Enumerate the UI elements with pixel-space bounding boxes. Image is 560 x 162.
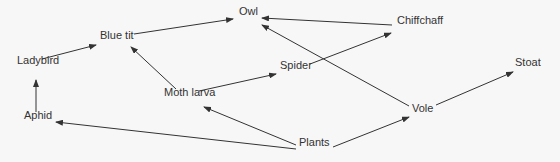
edge-chiffchaff-to-owl xyxy=(262,18,392,25)
edge-vole-to-stoat xyxy=(436,72,513,105)
node-owl: Owl xyxy=(239,5,258,17)
node-spider: Spider xyxy=(280,59,312,71)
node-vole: Vole xyxy=(412,102,433,114)
edge-bluetit-to-owl xyxy=(134,19,233,34)
node-aphid: Aphid xyxy=(24,109,52,121)
food-web-diagram: Owl Chiffchaff Blue tit Ladybird Spider … xyxy=(0,0,560,162)
node-chiffchaff: Chiffchaff xyxy=(397,14,443,26)
edge-spider-to-chiffchaff xyxy=(310,33,391,64)
node-stoat: Stoat xyxy=(515,56,541,68)
edge-plants-to-aphid xyxy=(56,122,296,149)
node-ladybird: Ladybird xyxy=(17,54,59,66)
edges-layer xyxy=(0,0,560,162)
node-plants: Plants xyxy=(299,136,330,148)
edge-plants-to-vole xyxy=(333,117,409,147)
node-blue-tit: Blue tit xyxy=(100,29,134,41)
node-moth-larva: Moth larva xyxy=(164,86,215,98)
edge-mothlarva-to-bluetit xyxy=(131,47,176,89)
edge-plants-to-mothlarva xyxy=(204,107,296,145)
